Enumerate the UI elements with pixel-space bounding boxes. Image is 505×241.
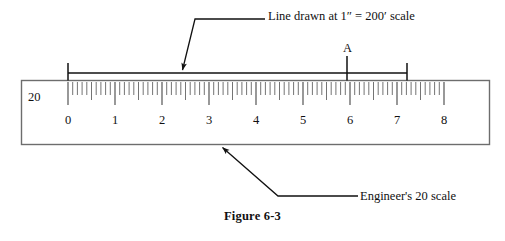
ruler-tick-label: 5 bbox=[300, 113, 306, 128]
ruler-tick-label: 8 bbox=[441, 113, 447, 128]
ruler-tick-label: 1 bbox=[112, 113, 118, 128]
leader-line-top bbox=[183, 19, 266, 70]
scale-designation-label: 20 bbox=[28, 91, 41, 104]
ruler-tick-label: 0 bbox=[65, 113, 71, 128]
ruler-tick-label: 4 bbox=[253, 113, 259, 128]
measurement-bracket bbox=[68, 63, 407, 81]
annotation-line-scale: Line drawn at 1″ = 200′ scale bbox=[268, 10, 415, 23]
leader-line-bottom bbox=[223, 148, 359, 197]
ruler-tick-label: 2 bbox=[159, 113, 165, 128]
point-a-label: A bbox=[343, 42, 352, 55]
annotation-engineers-scale: Engineer's 20 scale bbox=[360, 190, 456, 203]
ruler-tick-label: 7 bbox=[394, 113, 400, 128]
figure-caption: Figure 6-3 bbox=[224, 210, 281, 223]
figure-container: Line drawn at 1″ = 200′ scale A 20 Engin… bbox=[0, 0, 505, 241]
ruler-tick-label: 6 bbox=[347, 113, 353, 128]
ruler-tick-label: 3 bbox=[206, 113, 212, 128]
